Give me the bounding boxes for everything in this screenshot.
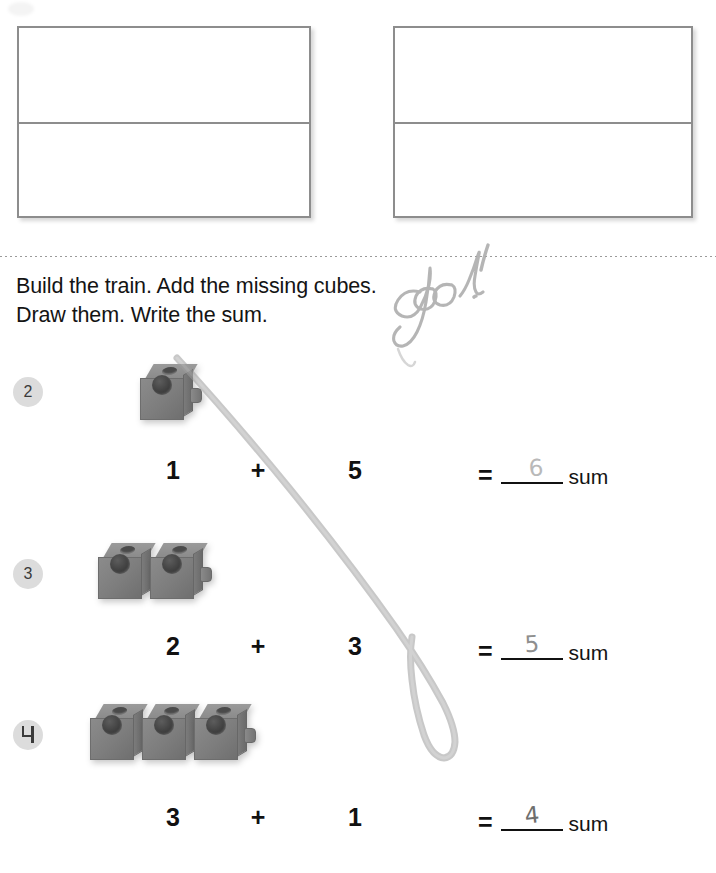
snap-cube [142, 704, 195, 760]
sum-answer-blank[interactable]: 6 [501, 456, 563, 484]
cube-socket [154, 715, 174, 735]
first-addend: 2 [155, 632, 191, 661]
left-answer-box-top-half[interactable] [19, 28, 309, 122]
problem-row: 2 1 + 5 = 6 sum [0, 360, 716, 510]
cube-train [140, 364, 192, 420]
equals-sign: = [478, 461, 493, 490]
cube-connector-nub [244, 728, 256, 743]
cube-connector-nub [190, 388, 202, 403]
second-addend: 3 [337, 632, 373, 661]
equation: 3 + 1 = 4 sum [0, 803, 716, 837]
cube-socket [162, 554, 182, 574]
sum-label: sum [569, 641, 609, 665]
plus-sign: + [240, 803, 276, 832]
handwritten-answer: 5 [500, 629, 563, 658]
problem-number-badge: 2 [13, 377, 43, 407]
sum-answer-blank[interactable]: 4 [501, 803, 563, 831]
snap-cube [194, 704, 247, 760]
instructions-line-1: Build the train. Add the missing cubes. [16, 272, 416, 301]
equation: 2 + 3 = 5 sum [0, 632, 716, 666]
cube-socket [206, 715, 226, 735]
handwritten-answer: 4 [499, 799, 563, 831]
equals-sign: = [478, 808, 493, 837]
cube-train [90, 704, 246, 760]
numeral-four-glyph [22, 726, 35, 743]
cube-connector-nub [200, 567, 212, 582]
second-addend: 5 [337, 456, 373, 485]
equation-tail: = 6 sum [478, 456, 608, 490]
plus-sign: + [240, 456, 276, 485]
equation-tail: = 4 sum [478, 803, 608, 837]
right-answer-box-bottom-half[interactable] [395, 124, 691, 216]
equation-tail: = 5 sum [478, 632, 608, 666]
instructions: Build the train. Add the missing cubes. … [16, 272, 416, 330]
equals-sign: = [478, 637, 493, 666]
snap-cube [140, 364, 193, 420]
cube-socket [102, 715, 122, 735]
problem-row: 3 2 + 3 = 5 [0, 537, 716, 687]
cube-train [98, 543, 202, 599]
scan-artifact [8, 2, 34, 16]
section-separator [0, 256, 716, 257]
left-answer-box-bottom-half[interactable] [19, 124, 309, 216]
cube-socket [152, 375, 172, 395]
sum-label: sum [569, 812, 609, 836]
sum-label: sum [569, 465, 609, 489]
snap-cube [98, 543, 151, 599]
right-answer-box-top-half[interactable] [395, 28, 691, 122]
cube-socket [110, 554, 130, 574]
right-answer-box[interactable] [393, 26, 693, 218]
handwritten-answer: 6 [504, 453, 568, 483]
second-addend: 1 [337, 803, 373, 832]
equation: 1 + 5 = 6 sum [0, 456, 716, 490]
snap-cube [90, 704, 143, 760]
problem-number-badge: 3 [13, 559, 43, 589]
problem-number-badge [13, 720, 43, 750]
left-answer-box[interactable] [17, 26, 311, 218]
sum-answer-blank[interactable]: 5 [501, 632, 563, 660]
instructions-line-2: Draw them. Write the sum. [16, 301, 416, 330]
first-addend: 3 [155, 803, 191, 832]
snap-cube [150, 543, 203, 599]
problem-row: 3 + 1 = 4 sum [0, 700, 716, 855]
first-addend: 1 [155, 456, 191, 485]
plus-sign: + [240, 632, 276, 661]
